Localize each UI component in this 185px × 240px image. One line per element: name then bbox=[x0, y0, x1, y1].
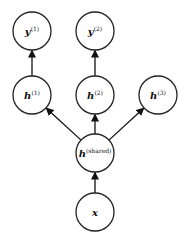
node-x-base: x bbox=[92, 207, 98, 218]
node-h2-sup: (2) bbox=[94, 89, 103, 96]
node-x-label: x bbox=[92, 206, 98, 218]
node-h3-sup: (3) bbox=[157, 89, 166, 96]
node-h2-label: h(2) bbox=[87, 89, 103, 101]
node-y2-label: y(2) bbox=[88, 25, 102, 37]
edge-hshared-to-h3 bbox=[109, 108, 144, 140]
node-y2-sup: (2) bbox=[94, 25, 103, 32]
edge-hshared-to-h1 bbox=[46, 108, 81, 140]
node-y1-sup: (1) bbox=[31, 25, 40, 32]
node-h1-label: h(1) bbox=[24, 89, 40, 101]
node-h1-sup: (1) bbox=[31, 89, 40, 96]
node-y1-label: y(1) bbox=[25, 25, 39, 37]
node-hshared-label: h(shared) bbox=[79, 147, 112, 159]
node-h3-label: h(3) bbox=[150, 89, 166, 101]
node-hshared-sup: (shared) bbox=[86, 147, 111, 154]
